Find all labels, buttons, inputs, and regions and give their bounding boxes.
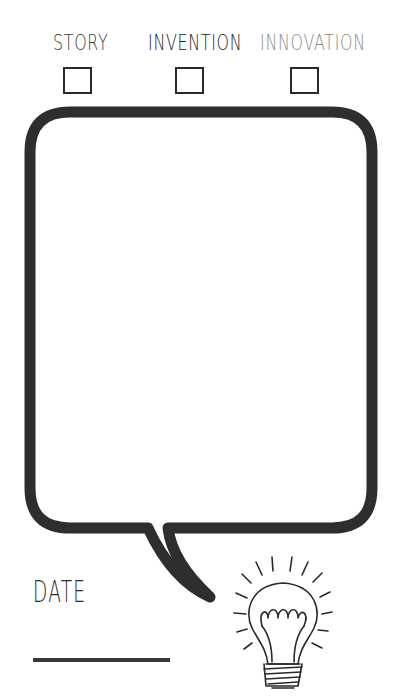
light-bulb-icon	[0, 0, 402, 699]
